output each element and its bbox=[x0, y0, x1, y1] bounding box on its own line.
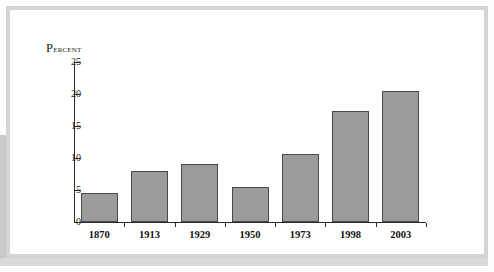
x-axis-tick-mark bbox=[376, 223, 377, 227]
y-axis-tick-label: 5 bbox=[59, 185, 81, 195]
y-axis-tick-label: 20 bbox=[59, 89, 81, 99]
bar bbox=[232, 187, 269, 222]
x-axis-label: 1973 bbox=[275, 229, 325, 242]
y-axis-tick-label: 15 bbox=[59, 121, 81, 131]
bar bbox=[332, 111, 369, 222]
figure-root: Percent 0510152025 187019131929195019731… bbox=[0, 0, 494, 272]
y-axis-title-rest: ercent bbox=[53, 43, 81, 54]
bar bbox=[282, 154, 319, 222]
y-axis-tick-label: 0 bbox=[59, 217, 81, 227]
x-axis-tick-mark bbox=[426, 223, 427, 227]
x-axis-tick-mark bbox=[225, 223, 226, 227]
x-axis-label: 1950 bbox=[225, 229, 275, 242]
chart-plot-area: Percent 0510152025 187019131929195019731… bbox=[10, 10, 484, 254]
x-axis-label: 2003 bbox=[376, 229, 426, 242]
x-axis-label: 1929 bbox=[175, 229, 225, 242]
y-axis-line bbox=[74, 62, 75, 223]
x-axis-label: 1870 bbox=[74, 229, 124, 242]
bar bbox=[81, 193, 118, 222]
bar bbox=[131, 171, 168, 222]
x-axis-tick-mark bbox=[175, 223, 176, 227]
y-axis-tick-label: 10 bbox=[59, 153, 81, 163]
bar bbox=[382, 91, 419, 222]
y-axis-title: Percent bbox=[46, 41, 82, 56]
frame-shadow-bottom bbox=[0, 258, 488, 266]
bar bbox=[181, 164, 218, 222]
x-axis-label: 1913 bbox=[124, 229, 174, 242]
x-axis-tick-mark bbox=[325, 223, 326, 227]
x-axis-tick-mark bbox=[124, 223, 125, 227]
x-axis-label: 1998 bbox=[326, 229, 376, 242]
y-axis-tick-label: 25 bbox=[59, 57, 81, 67]
x-axis-tick-mark bbox=[275, 223, 276, 227]
x-axis-line bbox=[74, 222, 426, 223]
